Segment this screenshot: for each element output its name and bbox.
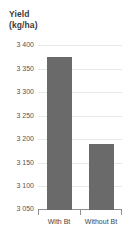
plot-area: 3 4003 3503 3003 2503 2003 1503 1003 050 xyxy=(38,45,122,210)
x-axis-tick xyxy=(80,210,81,215)
chart-title: Yield (kg/ha) xyxy=(9,9,79,30)
y-axis-tick-label: 3 100 xyxy=(16,182,34,190)
x-axis-tick xyxy=(121,210,122,215)
x-axis-tick xyxy=(38,210,39,215)
bar-chart: Yield (kg/ha) 3 4003 3503 3003 2503 2003… xyxy=(0,0,127,245)
y-axis-tick-label: 3 400 xyxy=(16,41,34,49)
y-axis-tick-label: 3 200 xyxy=(16,135,34,143)
x-axis-category-label: Without Bt xyxy=(85,217,117,226)
bar xyxy=(89,144,114,210)
gridline: 3 400 xyxy=(38,45,122,46)
chart-title-line-2: (kg/ha) xyxy=(9,20,79,31)
y-axis-tick-label: 3 350 xyxy=(16,65,34,73)
chart-title-line-1: Yield xyxy=(9,9,79,20)
y-axis-tick-label: 3 300 xyxy=(16,88,34,96)
bar xyxy=(47,57,72,210)
x-axis: With BtWithout Bt xyxy=(38,210,122,245)
x-axis-category-label: With Bt xyxy=(48,217,71,226)
y-axis-tick-label: 3 250 xyxy=(16,112,34,120)
y-axis-tick-label: 3 150 xyxy=(16,159,34,167)
y-axis-tick-label: 3 050 xyxy=(16,205,34,213)
